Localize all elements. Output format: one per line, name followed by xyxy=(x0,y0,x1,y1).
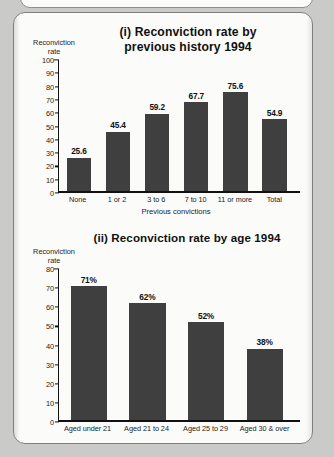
figure-2-bar-value-label: 62% xyxy=(139,292,155,302)
figure-1-y-tick-label: 20 xyxy=(18,162,54,171)
figure-2-y-tick-mark xyxy=(55,364,59,365)
figure-2-y-tick-label: 60 xyxy=(18,303,54,312)
figure-1-bar: 25.6 xyxy=(67,158,91,192)
figure-1-bar-value-label: 67.7 xyxy=(188,91,204,101)
figure-1-x-tick-labels: None1 or 23 to 67 to 1011 or moreTotal xyxy=(58,195,294,204)
figure-1-x-tick-label: 3 to 6 xyxy=(137,195,176,204)
figure-2-x-tick-label: Aged 30 & over xyxy=(235,424,294,433)
figure-1-x-tick-label: None xyxy=(58,195,97,204)
figure-1-x-axis-caption: Previous convictions xyxy=(58,207,294,216)
figure-2-bar-slot: 71% xyxy=(59,269,118,420)
figure-1-y-tick-label: 50 xyxy=(18,122,54,131)
figure-1-bar-slot: 67.7 xyxy=(177,60,216,191)
figure-1-y-tick-label: 100 xyxy=(18,56,54,65)
figure-1-x-axis-line xyxy=(58,191,300,193)
figure-1-y-tick-mark xyxy=(55,86,59,87)
figure-1-bar-slot: 75.6 xyxy=(216,60,255,191)
figure-1-y-tick-mark xyxy=(55,139,59,140)
figure-1-y-tick-mark xyxy=(55,73,59,74)
figure-1-y-tick-label: 90 xyxy=(18,69,54,78)
figure-2-bar-value-label: 38% xyxy=(257,337,273,347)
figure-2-y-tick-label: 30 xyxy=(18,360,54,369)
figure-1-y-axis-caption: Reconviction rate xyxy=(20,38,88,56)
figure-reconviction-by-age: (ii) Reconviction rate by age 1994 Recon… xyxy=(14,225,313,444)
figure-1-y-tick-mark xyxy=(55,113,59,114)
figure-2-y-tick-mark xyxy=(55,326,59,327)
figure-1-bar: 59.2 xyxy=(145,114,169,192)
figure-1-x-tick-label: 7 to 10 xyxy=(176,195,215,204)
figure-2-bar-slot: 52% xyxy=(177,269,236,420)
figure-2-y-tick-mark xyxy=(55,345,59,346)
figure-1-bar: 54.9 xyxy=(262,119,286,191)
figure-1-x-tick-label: 1 or 2 xyxy=(97,195,136,204)
figure-1-y-tick-mark xyxy=(55,166,59,167)
figure-2-y-tick-mark xyxy=(55,288,59,289)
figure-2-y-tick-label: 70 xyxy=(18,284,54,293)
figure-1-y-tick-mark xyxy=(55,192,59,193)
figure-2-x-tick-label: Aged under 21 xyxy=(58,424,117,433)
figure-1-y-tick-label: 0 xyxy=(18,189,54,198)
figure-2-x-axis-line xyxy=(58,420,300,422)
figure-1-bar: 45.4 xyxy=(106,132,130,192)
figure-1-y-tick-mark xyxy=(55,126,59,127)
figure-2-y-tick-label: 0 xyxy=(18,418,54,427)
figure-1-x-tick-label: 11 or more xyxy=(215,195,254,204)
figure-1-plot-area: 25.645.459.267.775.654.9 010203040506070… xyxy=(58,60,294,193)
figure-1-y-tick-label: 60 xyxy=(18,109,54,118)
figure-1-title: (i) Reconviction rate by previous histor… xyxy=(72,25,304,55)
figure-2-y-tick-label: 20 xyxy=(18,379,54,388)
figure-1-y-tick-label: 70 xyxy=(18,95,54,104)
figure-2-bar-value-label: 52% xyxy=(198,311,214,321)
figure-1-bar-value-label: 54.9 xyxy=(267,108,283,118)
figure-1-bar-group: 25.645.459.267.775.654.9 xyxy=(59,60,294,191)
figure-1-y-tick-label: 40 xyxy=(18,135,54,144)
figure-2-bar-value-label: 71% xyxy=(81,275,97,285)
figure-2-bar-group: 71%62%52%38% xyxy=(59,269,294,420)
figure-2-x-tick-label: Aged 21 to 24 xyxy=(117,424,176,433)
figure-1-bar: 75.6 xyxy=(223,92,247,191)
figure-1-y-tick-mark xyxy=(55,153,59,154)
figure-reconviction-by-previous-history: (i) Reconviction rate by previous histor… xyxy=(14,13,313,225)
figure-2-y-tick-label: 80 xyxy=(18,265,54,274)
figure-2-x-tick-labels: Aged under 21Aged 21 to 24Aged 25 to 29A… xyxy=(58,424,294,433)
scanned-page: (i) Reconviction rate by previous histor… xyxy=(0,0,334,457)
figure-1-bar-value-label: 45.4 xyxy=(110,120,126,130)
figure-1-bar-value-label: 75.6 xyxy=(228,81,244,91)
figure-1-bar-slot: 45.4 xyxy=(99,60,138,191)
figure-2-y-tick-label: 40 xyxy=(18,341,54,350)
figure-1-bar-slot: 25.6 xyxy=(59,60,98,191)
figure-2-plot-area: 71%62%52%38% 01020304050607080 xyxy=(58,269,294,422)
figure-2-title: (ii) Reconviction rate by age 1994 xyxy=(66,231,308,245)
figure-2-y-tick-label: 10 xyxy=(18,398,54,407)
figure-1-y-tick-mark xyxy=(54,59,59,60)
figure-2-bar: 52% xyxy=(188,322,224,420)
figure-2-x-tick-label: Aged 25 to 29 xyxy=(176,424,235,433)
figure-1-bar-slot: 59.2 xyxy=(138,60,177,191)
figure-1-y-tick-label: 30 xyxy=(18,149,54,158)
figure-1-y-tick-label: 80 xyxy=(18,82,54,91)
figure-2-y-tick-mark xyxy=(55,421,59,422)
figure-2-bar: 62% xyxy=(129,303,165,420)
figure-2-bar-slot: 62% xyxy=(118,269,177,420)
figure-1-bar-slot: 54.9 xyxy=(255,60,294,191)
figure-1-bar: 67.7 xyxy=(184,102,208,191)
figure-2-bar: 38% xyxy=(247,349,283,421)
figure-1-x-tick-label: Total xyxy=(255,195,294,204)
panel-above-fragment xyxy=(20,0,313,8)
figure-1-bar-value-label: 59.2 xyxy=(149,102,165,112)
figure-1-y-tick-label: 10 xyxy=(18,175,54,184)
charts-panel: (i) Reconviction rate by previous histor… xyxy=(13,12,313,444)
figure-1-bar-value-label: 25.6 xyxy=(71,146,87,156)
figure-2-y-tick-label: 50 xyxy=(18,322,54,331)
figure-2-y-axis-caption: Reconviction rate xyxy=(20,247,88,265)
figure-2-y-tick-mark xyxy=(55,383,59,384)
figure-2-bar-slot: 38% xyxy=(235,269,294,420)
figure-2-y-tick-mark xyxy=(54,268,59,269)
figure-2-y-tick-mark xyxy=(55,402,59,403)
figure-1-y-tick-mark xyxy=(55,179,59,180)
figure-2-y-tick-mark xyxy=(55,307,59,308)
figure-2-bar: 71% xyxy=(71,286,107,420)
figure-1-y-tick-mark xyxy=(55,99,59,100)
